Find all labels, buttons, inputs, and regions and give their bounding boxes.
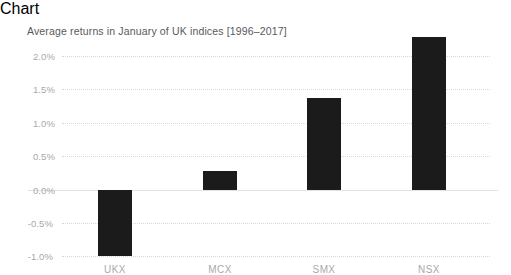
- bar-ukx[interactable]: [98, 190, 132, 256]
- ytick-label-2-0: 2.0%: [5, 51, 55, 62]
- bar-nsx[interactable]: [412, 37, 446, 190]
- bar-mcx[interactable]: [203, 171, 237, 190]
- plot-area: 2.0% 1.5% 1.0% 0.5% 0.0% -0.5% -1.0% UKX…: [0, 18, 511, 275]
- ytick-label-1-0: 1.0%: [5, 118, 55, 129]
- bar-smx[interactable]: [307, 98, 341, 190]
- xtick-label-smx: SMX: [284, 264, 364, 275]
- ytick-label-1-5: 1.5%: [5, 84, 55, 95]
- ytick-label-neg-1-0: -1.0%: [3, 251, 53, 262]
- xtick-label-ukx: UKX: [75, 264, 155, 275]
- xtick-label-nsx: NSX: [389, 264, 469, 275]
- ytick-label-neg-0-5: -0.5%: [3, 218, 53, 229]
- chart-figure: Average returns in January of UK indices…: [0, 18, 511, 275]
- ytick-label-0-5: 0.5%: [5, 151, 55, 162]
- gridline-neg-1-0: [62, 256, 490, 257]
- xtick-label-mcx: MCX: [180, 264, 260, 275]
- ytick-label-0-0: 0.0%: [5, 185, 55, 196]
